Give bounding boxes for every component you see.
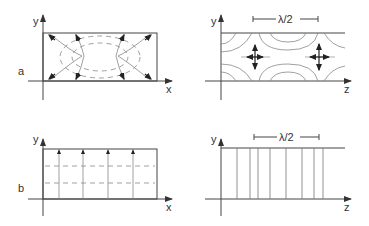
electric-field-lines [237,148,323,199]
field-cross-arrows-1 [241,45,270,69]
field-loop [221,72,236,81]
y-axis-label: y [211,15,217,27]
panel-label-a: a [18,65,25,77]
field-loop [259,64,318,81]
y-axis-label: y [33,15,39,27]
panel-b-longitudinal: λ/2 y z [205,131,351,216]
electric-field-line-right [118,34,150,80]
field-loop [324,66,345,81]
half-wavelength-label: λ/2 [279,131,294,143]
field-arrow-icon [76,35,79,41]
panel-a-cross-section: y x a [18,15,172,100]
field-loop [221,33,252,52]
z-axis-label: z [344,83,350,95]
field-arrow-icon [121,73,124,79]
z-axis-label: z [344,201,350,213]
field-loop [270,72,306,81]
y-axis-label: y [211,133,217,145]
waveguide-outline [43,149,157,199]
field-arrow-icon [121,35,124,41]
field-loop [221,33,236,44]
x-axis-label: x [166,201,172,213]
field-cross-arrows-2 [305,44,335,70]
field-loop [259,33,318,50]
panel-b-cross-section: y x b [18,133,172,216]
x-axis-label: x [166,83,172,95]
waveguide-mode-diagram: y x a λ/2 [0,0,369,226]
y-axis-label: y [33,133,39,145]
panel-a-longitudinal: λ/2 y z [205,13,351,100]
field-loop [270,33,306,42]
electric-field-line-left [50,34,82,80]
field-loop [324,33,345,48]
panel-label-b: b [18,182,24,194]
half-wavelength-label: λ/2 [278,13,293,25]
